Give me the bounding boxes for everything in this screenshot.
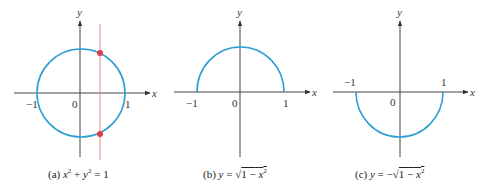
caption-b: (b) y = √1 − x2 xyxy=(203,168,267,180)
caption-prefix: (a) xyxy=(48,168,60,180)
x-axis-label: x xyxy=(469,86,475,98)
caption-var-y: y xyxy=(370,168,375,180)
caption-radicand: 1 − x2 xyxy=(399,168,425,180)
caption-c: (c) y = −√1 − x2 xyxy=(355,168,424,180)
tick-neg1: −1 xyxy=(26,98,38,110)
caption-equals: = 1 xyxy=(94,168,108,180)
tick-1: 1 xyxy=(283,97,289,109)
y-axis-label: y xyxy=(396,6,402,18)
caption-exponent: 2 xyxy=(263,167,267,175)
panel-c: y x −1 0 1 xyxy=(333,6,475,157)
caption-a: (a) x2 + y2 = 1 xyxy=(48,168,109,180)
caption-radicand: 1 − x2 xyxy=(241,168,267,180)
caption-equals: = xyxy=(226,168,232,180)
caption-exponent: 2 xyxy=(421,167,425,175)
intersection-point-lower xyxy=(97,131,103,137)
caption-var-y: y xyxy=(219,168,224,180)
figure-canvas: y x −1 0 1 y x −1 0 1 y x −1 0 1 xyxy=(0,0,480,193)
tick-0: 0 xyxy=(390,96,396,108)
tick-1: 1 xyxy=(441,76,447,88)
x-axis-label: x xyxy=(311,86,317,98)
y-axis-label: y xyxy=(76,6,82,18)
panel-a: y x −1 0 1 xyxy=(14,6,157,160)
caption-prefix: (c) xyxy=(355,168,367,180)
x-axis-label: x xyxy=(151,87,157,99)
panel-b: y x −1 0 1 xyxy=(174,6,317,157)
tick-0: 0 xyxy=(72,98,78,110)
caption-radicand-const: 1 − xyxy=(241,168,255,180)
caption-prefix: (b) xyxy=(203,168,216,180)
tick-neg1: −1 xyxy=(186,97,198,109)
caption-plus: + xyxy=(74,168,80,180)
caption-radicand-const: 1 − xyxy=(399,168,413,180)
caption-exponent: 2 xyxy=(88,167,92,175)
tick-neg1: −1 xyxy=(344,76,356,88)
tick-1: 1 xyxy=(125,98,131,110)
y-axis-label: y xyxy=(236,6,242,18)
caption-equals: = − xyxy=(378,168,393,180)
intersection-point-upper xyxy=(97,50,103,56)
tick-0: 0 xyxy=(232,97,238,109)
caption-exponent: 2 xyxy=(68,167,72,175)
